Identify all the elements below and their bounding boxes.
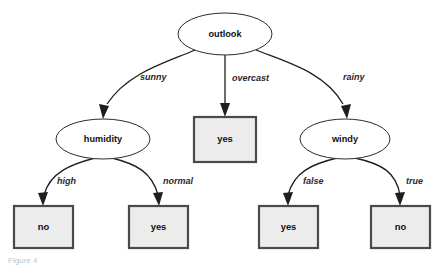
figure-caption: Figure 4	[8, 257, 188, 265]
edge-high-arrowhead	[38, 192, 48, 206]
leaf-node-false-yes[interactable]: yes	[259, 206, 318, 248]
leaf-label: yes	[151, 221, 167, 232]
edge-normal-path	[112, 158, 158, 195]
edge-rainy	[256, 50, 351, 119]
decision-node-outlook[interactable]: outlook	[178, 13, 272, 55]
leaf-label: no	[395, 221, 407, 232]
edge-overcast	[220, 55, 230, 117]
edge-false-arrowhead	[283, 192, 293, 206]
edge-sunny-arrowhead	[99, 104, 109, 119]
edge-label-sunny: sunny	[140, 72, 167, 82]
edge-true	[355, 158, 405, 206]
leaf-label: yes	[217, 133, 233, 144]
leaf-node-normal-yes[interactable]: yes	[129, 206, 188, 248]
edge-label-high: high	[57, 176, 76, 186]
edge-rainy-path	[256, 50, 343, 104]
node-label: windy	[331, 134, 359, 144]
decision-node-humidity[interactable]: humidity	[56, 119, 150, 159]
edge-normal-arrowhead	[153, 192, 163, 206]
decision-node-windy[interactable]: windy	[300, 119, 390, 159]
edge-label-rainy: rainy	[343, 72, 366, 82]
edge-normal	[112, 158, 163, 206]
edge-true-arrowhead	[395, 192, 405, 206]
leaf-label: yes	[281, 221, 297, 232]
leaf-node-overcast-yes[interactable]: yes	[194, 117, 256, 162]
decision-tree-graphic: yes no yes yes no outlook	[0, 0, 444, 265]
edge-label-overcast: overcast	[232, 73, 270, 83]
leaf-node-high-no[interactable]: no	[14, 206, 73, 248]
leaf-label: no	[38, 221, 50, 232]
edge-label-normal: normal	[163, 176, 194, 186]
edge-rainy-arrowhead	[341, 104, 351, 119]
edge-label-false: false	[303, 176, 324, 186]
leaf-node-true-no[interactable]: no	[371, 206, 430, 248]
edge-true-path	[355, 158, 400, 195]
node-label: outlook	[208, 29, 242, 39]
edge-label-true: true	[406, 176, 423, 186]
node-label: humidity	[84, 134, 123, 144]
edge-overcast-arrowhead	[220, 103, 230, 117]
decision-tree-canvas: yes no yes yes no outlook	[0, 0, 444, 265]
edge-sunny	[99, 50, 195, 119]
